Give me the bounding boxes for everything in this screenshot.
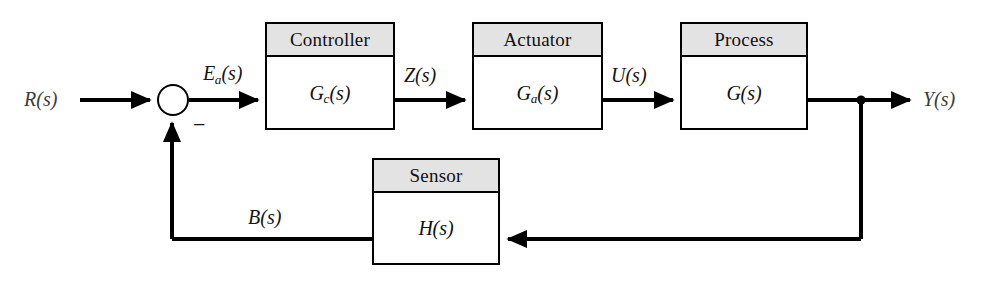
label-actuator-output: U(s) <box>611 64 647 87</box>
block-controller[interactable]: Controller Gc(s) <box>265 22 395 130</box>
label-controller-output: Z(s) <box>404 64 436 87</box>
controller-tf-arg: (s) <box>329 82 350 104</box>
label-feedback-signal: B(s) <box>248 206 281 229</box>
block-controller-transfer-function: Gc(s) <box>267 57 393 128</box>
block-controller-header: Controller <box>267 24 393 57</box>
controller-tf-var: G <box>309 82 323 104</box>
block-process[interactable]: Process G(s) <box>680 22 808 130</box>
block-sensor-transfer-function: H(s) <box>374 193 498 263</box>
block-diagram: − Controller Gc(s) Actuator Ga(s) Proces… <box>0 0 982 290</box>
error-label-arg: (s) <box>221 62 242 84</box>
actuator-tf-arg: (s) <box>537 82 558 104</box>
error-label-var: E <box>203 62 215 84</box>
block-sensor[interactable]: Sensor H(s) <box>372 158 500 265</box>
block-actuator-header: Actuator <box>474 24 601 57</box>
actuator-tf-subscript: a <box>531 91 538 106</box>
block-actuator[interactable]: Actuator Ga(s) <box>472 22 603 130</box>
takeoff-junction-dot <box>856 95 865 104</box>
actuator-tf-var: G <box>517 82 531 104</box>
block-actuator-transfer-function: Ga(s) <box>474 57 601 128</box>
block-process-transfer-function: G(s) <box>682 57 806 128</box>
label-system-output: Y(s) <box>923 88 955 111</box>
label-error-signal: Ea(s) <box>203 62 243 88</box>
label-reference-input: R(s) <box>24 88 57 111</box>
block-sensor-header: Sensor <box>374 160 498 193</box>
process-tf-arg: (s) <box>740 82 761 104</box>
block-process-header: Process <box>682 24 806 57</box>
summing-junction-minus-sign: − <box>193 114 205 136</box>
sensor-tf-var: H <box>418 217 432 239</box>
process-tf-var: G <box>726 82 740 104</box>
sensor-tf-arg: (s) <box>432 217 453 239</box>
summing-junction <box>157 84 189 116</box>
